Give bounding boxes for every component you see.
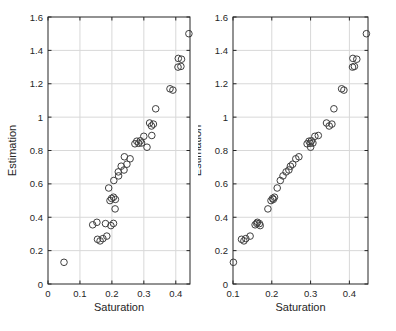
data-point xyxy=(121,154,128,161)
y-tick-label: 0.4 xyxy=(30,212,43,223)
y-tick-label: 0.6 xyxy=(30,178,43,189)
y-tick-label: 0.6 xyxy=(215,178,228,189)
y-tick-label: 0.2 xyxy=(215,245,228,256)
data-point xyxy=(149,132,156,139)
data-point xyxy=(274,185,281,192)
x-tick-label: 0.1 xyxy=(226,288,239,299)
data-point xyxy=(186,30,193,37)
x-tick-label: 0.4 xyxy=(169,288,182,299)
scatter-plot-right: 0.10.20.30.400.20.40.60.811.21.41.6Satur… xyxy=(198,0,396,331)
x-tick-label: 0.2 xyxy=(265,288,278,299)
x-axis-label: Saturation xyxy=(275,301,325,313)
y-axis-label: Estimation xyxy=(6,125,18,176)
x-tick-label: 0.1 xyxy=(73,288,86,299)
data-point xyxy=(265,206,272,213)
x-tick-label: 0.3 xyxy=(137,288,150,299)
data-point xyxy=(341,87,348,94)
figure: 00.10.20.30.400.20.40.60.811.21.41.6Satu… xyxy=(0,0,396,331)
y-axis-label: Estimation xyxy=(198,125,203,176)
y-tick-label: 1.2 xyxy=(215,78,228,89)
data-point xyxy=(150,121,157,128)
y-tick-label: 1.6 xyxy=(30,12,43,23)
data-point xyxy=(112,206,119,213)
data-point xyxy=(152,106,159,113)
y-tick-label: 0.2 xyxy=(30,245,43,256)
y-tick-label: 1.4 xyxy=(30,45,43,56)
y-tick-label: 1.4 xyxy=(215,45,228,56)
y-tick-label: 1.2 xyxy=(30,78,43,89)
x-tick-label: 0.3 xyxy=(304,288,317,299)
x-tick-label: 0 xyxy=(45,288,50,299)
data-point xyxy=(61,259,68,266)
y-tick-label: 1.6 xyxy=(215,12,228,23)
y-tick-label: 0 xyxy=(223,279,228,290)
data-point xyxy=(331,106,338,113)
x-tick-label: 0.2 xyxy=(105,288,118,299)
data-point xyxy=(105,185,112,192)
data-point xyxy=(144,144,151,151)
scatter-plot-left: 00.10.20.30.400.20.40.60.811.21.41.6Satu… xyxy=(0,0,198,331)
y-tick-label: 1 xyxy=(223,112,228,123)
data-point xyxy=(354,56,361,63)
y-tick-label: 0.8 xyxy=(30,145,43,156)
x-axis-label: Saturation xyxy=(94,301,144,313)
y-tick-label: 0.4 xyxy=(215,212,228,223)
data-point xyxy=(363,30,370,37)
y-tick-label: 0.8 xyxy=(215,145,228,156)
x-tick-label: 0.4 xyxy=(343,288,356,299)
y-tick-label: 0 xyxy=(38,279,43,290)
y-tick-label: 1 xyxy=(38,112,43,123)
